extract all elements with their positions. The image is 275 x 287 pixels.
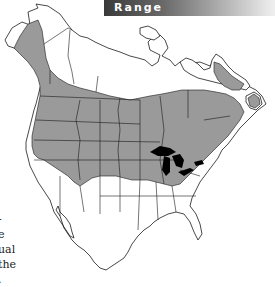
side-text-line-2: e bbox=[0, 227, 5, 242]
side-text-line-4: the bbox=[0, 257, 16, 272]
side-text-line-3: ual bbox=[0, 242, 15, 257]
side-text-line-5: . bbox=[0, 272, 2, 287]
side-text-line-1: - bbox=[0, 212, 2, 227]
header-title: Range bbox=[114, 1, 163, 14]
range-header: Range bbox=[104, 0, 275, 16]
